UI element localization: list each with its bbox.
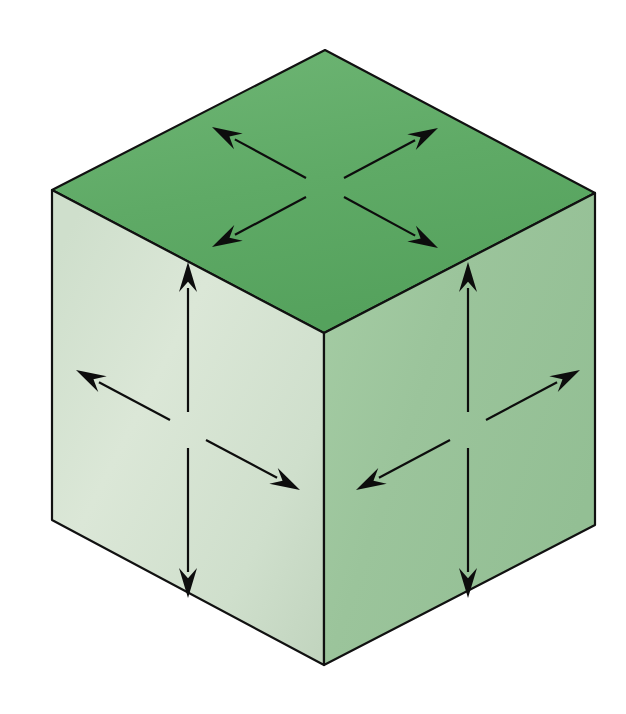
cube-faces [52,50,595,665]
isometric-cube-diagram [0,0,626,714]
figure-canvas [0,0,626,714]
